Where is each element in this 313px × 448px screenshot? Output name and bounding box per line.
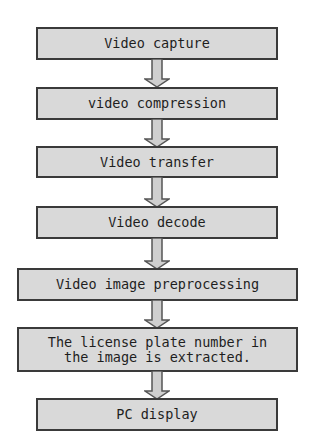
step-video-compression: video compression <box>36 87 278 120</box>
step-license-plate-extraction: The license plate number in the image is… <box>17 327 298 372</box>
step-label: video compression <box>88 96 226 111</box>
down-arrow-icon <box>144 59 170 87</box>
down-arrow-icon <box>144 177 170 205</box>
step-label: Video image preprocessing <box>56 277 259 292</box>
step-pc-display: PC display <box>36 398 278 431</box>
step-video-transfer: Video transfer <box>36 146 278 178</box>
step-video-capture: Video capture <box>36 27 278 60</box>
step-label: The license plate number in the image is… <box>48 335 267 365</box>
down-arrow-icon <box>144 371 170 399</box>
step-label: Video decode <box>108 215 206 230</box>
down-arrow-icon <box>144 119 170 147</box>
step-label: Video capture <box>104 36 210 51</box>
step-video-decode: Video decode <box>36 206 278 239</box>
down-arrow-icon <box>144 300 170 328</box>
down-arrow-icon <box>144 238 170 266</box>
step-video-image-preprocessing: Video image preprocessing <box>17 268 298 301</box>
step-label: PC display <box>116 407 197 422</box>
step-label: Video transfer <box>100 155 214 170</box>
